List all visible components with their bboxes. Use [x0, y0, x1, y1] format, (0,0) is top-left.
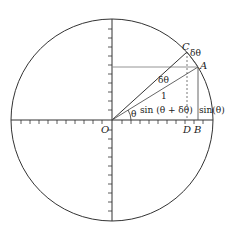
label-delta-theta-angle: δθ [158, 75, 169, 85]
label-theta: θ [131, 109, 136, 119]
label-a: A [199, 60, 207, 71]
label-b: B [193, 124, 201, 135]
label-origin: O [101, 124, 109, 135]
label-c: C [182, 41, 190, 52]
label-d: D [182, 124, 191, 135]
label-delta-theta-arc: δθ [190, 48, 201, 58]
label-sin-theta: sin(θ) [199, 105, 225, 115]
label-sin-theta-plus-delta: sin (θ + δθ) [140, 105, 193, 115]
unit-circle-diagram: O C A D B δθ δθ 1 θ sin (θ + δθ) sin(θ) [0, 0, 235, 239]
label-radius-one: 1 [161, 91, 167, 101]
